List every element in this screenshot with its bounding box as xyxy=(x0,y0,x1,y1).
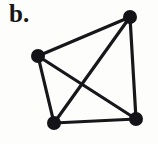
edge-layer xyxy=(38,17,136,123)
graph-vertex-top-right xyxy=(123,10,137,24)
edge-topright-to-bottomright xyxy=(130,17,136,119)
edge-bottomright-to-bottomleft xyxy=(54,119,136,123)
graph-vertex-bottom-left xyxy=(47,116,61,130)
graph-diagram xyxy=(0,0,158,144)
graph-vertex-left xyxy=(31,49,45,63)
graph-vertex-bottom-right xyxy=(129,112,143,126)
edge-left-to-bottomright-diagonal xyxy=(38,56,136,119)
figure-panel: b. xyxy=(0,0,158,144)
